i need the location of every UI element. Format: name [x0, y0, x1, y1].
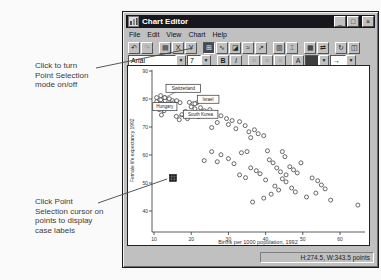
- data-point[interactable]: [288, 165, 292, 169]
- menu-chart[interactable]: Chart: [188, 31, 205, 38]
- data-point[interactable]: [215, 121, 219, 125]
- chart-editor-icon: [128, 16, 139, 27]
- data-point[interactable]: [262, 196, 266, 200]
- data-point[interactable]: [202, 159, 206, 163]
- data-point[interactable]: [247, 130, 251, 134]
- trend-icon[interactable]: ↗: [255, 42, 267, 54]
- data-point[interactable]: [210, 126, 214, 130]
- case-label: Switzerland: [172, 86, 196, 91]
- data-point[interactable]: [269, 192, 273, 196]
- data-point[interactable]: [252, 128, 256, 132]
- data-point[interactable]: [219, 153, 223, 157]
- data-point[interactable]: [316, 179, 320, 183]
- data-point[interactable]: [163, 96, 167, 100]
- data-point[interactable]: [278, 170, 282, 174]
- data-point[interactable]: [284, 180, 288, 184]
- data-point[interactable]: [251, 200, 255, 204]
- close-button[interactable]: ×: [362, 16, 374, 27]
- redo-icon[interactable]: ↷: [141, 42, 153, 54]
- data-point[interactable]: [305, 195, 309, 199]
- data-point[interactable]: [177, 118, 181, 122]
- x-axis-icon[interactable]: X: [172, 42, 184, 54]
- data-point[interactable]: [193, 102, 197, 106]
- 3d-icon[interactable]: ◫: [348, 42, 360, 54]
- data-point[interactable]: [273, 184, 277, 188]
- data-point[interactable]: [238, 173, 242, 177]
- data-point[interactable]: [295, 171, 299, 175]
- toolbar-separator: [154, 42, 158, 54]
- data-point[interactable]: [292, 168, 296, 172]
- data-point[interactable]: [243, 124, 247, 128]
- data-point[interactable]: [319, 183, 323, 187]
- interpolation-icon[interactable]: ≈: [242, 42, 254, 54]
- y-axis-icon[interactable]: Y: [185, 42, 197, 54]
- data-point[interactable]: [277, 188, 281, 192]
- undo-icon[interactable]: ↶: [128, 42, 140, 54]
- data-point[interactable]: [178, 101, 182, 105]
- x-tick-label: 50: [300, 236, 306, 242]
- data-point[interactable]: [323, 187, 327, 191]
- data-point[interactable]: [310, 176, 314, 180]
- data-point[interactable]: [159, 113, 163, 117]
- data-point[interactable]: [254, 169, 258, 173]
- data-point[interactable]: [199, 106, 203, 110]
- chart-area[interactable]: Female life expectancy 1992 908070605040…: [127, 65, 370, 246]
- data-point[interactable]: [356, 203, 360, 207]
- data-point[interactable]: [226, 122, 230, 126]
- data-point[interactable]: [299, 161, 303, 165]
- data-point[interactable]: [239, 151, 243, 155]
- data-point[interactable]: [265, 149, 269, 153]
- chart-options-icon[interactable]: ▤: [159, 42, 171, 54]
- data-point[interactable]: [329, 198, 333, 202]
- data-point[interactable]: [280, 177, 284, 181]
- title-bar[interactable]: Chart Editor _ □ ×: [126, 15, 375, 28]
- interval-icon[interactable]: ⌶: [286, 42, 298, 54]
- menu-edit[interactable]: Edit: [147, 31, 159, 38]
- data-point[interactable]: [275, 166, 279, 170]
- data-point[interactable]: [232, 162, 236, 166]
- data-point[interactable]: [225, 117, 229, 121]
- area-chart-icon[interactable]: ◪: [229, 42, 241, 54]
- data-point[interactable]: [159, 98, 163, 102]
- data-point[interactable]: [210, 150, 214, 154]
- data-point[interactable]: [174, 114, 178, 118]
- maximize-button[interactable]: □: [347, 16, 359, 27]
- bar-chart-icon[interactable]: ▥: [273, 42, 285, 54]
- data-point[interactable]: [314, 191, 318, 195]
- data-point[interactable]: [245, 150, 249, 154]
- y-tick-label: 60: [142, 152, 148, 158]
- data-point[interactable]: [283, 155, 287, 159]
- data-point[interactable]: [234, 127, 238, 131]
- data-point[interactable]: [215, 160, 219, 164]
- selected-point-marker[interactable]: [169, 174, 176, 181]
- x-tick-label: 60: [337, 236, 343, 242]
- menu-file[interactable]: File: [129, 31, 140, 38]
- data-point[interactable]: [284, 173, 288, 177]
- minimize-button[interactable]: _: [334, 16, 346, 27]
- data-point[interactable]: [256, 132, 260, 136]
- line-chart-icon[interactable]: ∿: [216, 42, 228, 54]
- menu-view[interactable]: View: [166, 31, 181, 38]
- data-point[interactable]: [230, 119, 234, 123]
- data-point[interactable]: [290, 186, 294, 190]
- swap-axes-icon[interactable]: ⇄: [317, 42, 329, 54]
- data-point[interactable]: [155, 96, 159, 100]
- data-point[interactable]: [219, 114, 223, 118]
- data-point[interactable]: [258, 172, 262, 176]
- data-point[interactable]: [159, 94, 163, 98]
- data-point[interactable]: [244, 176, 248, 180]
- rotate-icon[interactable]: ↻: [335, 42, 347, 54]
- data-point[interactable]: [262, 134, 266, 138]
- grid-icon[interactable]: ▦: [304, 42, 316, 54]
- data-point[interactable]: [226, 157, 230, 161]
- data-point[interactable]: [280, 150, 284, 154]
- data-point[interactable]: [238, 120, 242, 124]
- data-point[interactable]: [264, 178, 268, 182]
- data-point[interactable]: [249, 166, 253, 170]
- menu-help[interactable]: Help: [213, 31, 227, 38]
- data-point[interactable]: [271, 161, 275, 165]
- point-selection-icon[interactable]: ⊞: [203, 42, 215, 54]
- data-point[interactable]: [267, 158, 271, 162]
- data-point[interactable]: [249, 136, 253, 140]
- data-point[interactable]: [293, 190, 297, 194]
